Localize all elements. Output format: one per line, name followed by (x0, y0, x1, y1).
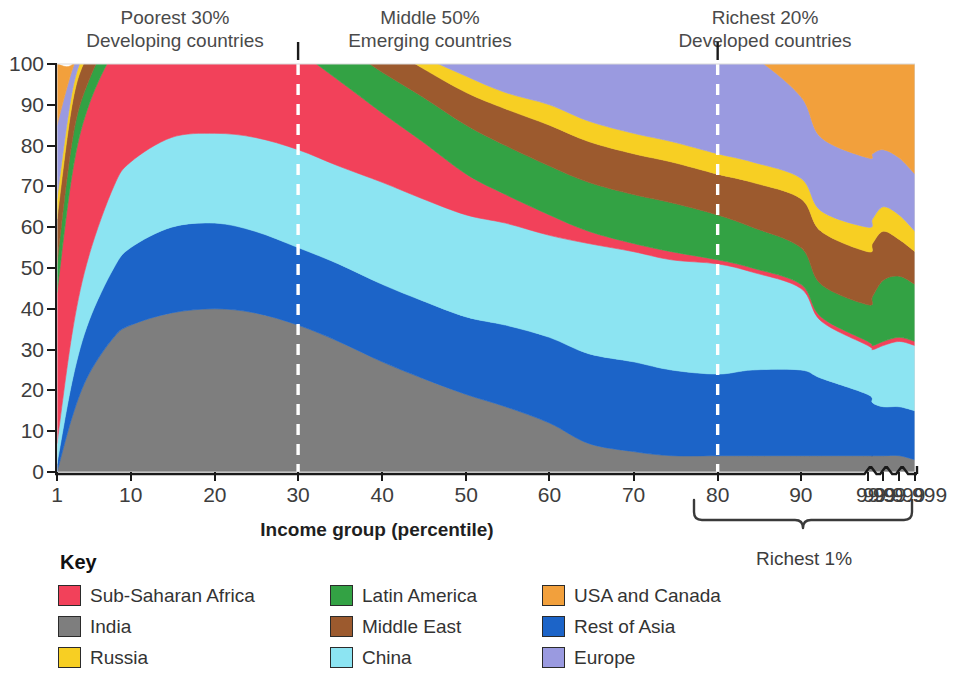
y-tick-label: 10 (0, 420, 44, 441)
legend: Key Sub-Saharan AfricaLatin AmericaUSA a… (58, 551, 758, 673)
legend-item-label: Europe (574, 648, 635, 667)
legend-item-label: Latin America (362, 586, 477, 605)
legend-item-label: Russia (90, 648, 148, 667)
legend-item[interactable]: USA and Canada (542, 585, 772, 606)
legend-item-label: India (90, 617, 131, 636)
legend-swatch-icon (58, 647, 81, 668)
chart-figure: Poorest 30% Developing countries Middle … (0, 0, 956, 675)
x-axis-line (55, 466, 935, 492)
legend-swatch-icon (330, 616, 353, 637)
y-tick (47, 267, 56, 269)
y-tick (47, 63, 56, 65)
region-caption-line1: Middle 50% (300, 6, 560, 29)
legend-swatch-icon (542, 647, 565, 668)
y-tick-label: 70 (0, 175, 44, 196)
y-tick-label: 40 (0, 298, 44, 319)
legend-title: Key (60, 551, 758, 574)
legend-item-label: Middle East (362, 617, 461, 636)
y-tick (47, 185, 56, 187)
y-tick-label: 20 (0, 379, 44, 400)
y-tick-label: 100 (0, 53, 44, 74)
legend-swatch-icon (330, 585, 353, 606)
legend-item-label: USA and Canada (574, 586, 721, 605)
region-caption-line1: Richest 20% (630, 6, 900, 29)
legend-item[interactable]: Middle East (330, 616, 542, 637)
y-tick-label: 80 (0, 135, 44, 156)
legend-item[interactable]: Rest of Asia (542, 616, 772, 637)
legend-swatch-icon (542, 585, 565, 606)
y-tick (47, 349, 56, 351)
y-tick-label: 90 (0, 94, 44, 115)
legend-swatch-icon (330, 647, 353, 668)
plot-area (57, 64, 915, 472)
richest-one-percent-bracket (690, 498, 920, 546)
legend-item-label: China (362, 648, 412, 667)
legend-item[interactable]: Europe (542, 647, 772, 668)
y-tick (47, 430, 56, 432)
legend-item[interactable]: China (330, 647, 542, 668)
y-tick (47, 226, 56, 228)
y-tick (47, 104, 56, 106)
x-axis-title: Income group (percentile) (57, 519, 697, 541)
region-caption-line1: Poorest 30% (35, 6, 315, 29)
y-tick-label: 0 (0, 461, 44, 482)
legend-swatch-icon (542, 616, 565, 637)
y-tick-label: 60 (0, 216, 44, 237)
y-tick-label: 30 (0, 339, 44, 360)
stacked-area-svg (57, 38, 915, 472)
legend-swatch-icon (58, 585, 81, 606)
legend-item[interactable]: Russia (58, 647, 330, 668)
legend-item-label: Rest of Asia (574, 617, 675, 636)
legend-grid: Sub-Saharan AfricaLatin AmericaUSA and C… (58, 580, 758, 673)
y-tick (47, 308, 56, 310)
y-tick-label: 50 (0, 257, 44, 278)
legend-item[interactable]: Sub-Saharan Africa (58, 585, 330, 606)
y-tick (47, 389, 56, 391)
legend-item[interactable]: India (58, 616, 330, 637)
legend-swatch-icon (58, 616, 81, 637)
legend-item-label: Sub-Saharan Africa (90, 586, 255, 605)
legend-item[interactable]: Latin America (330, 585, 542, 606)
y-tick (47, 145, 56, 147)
